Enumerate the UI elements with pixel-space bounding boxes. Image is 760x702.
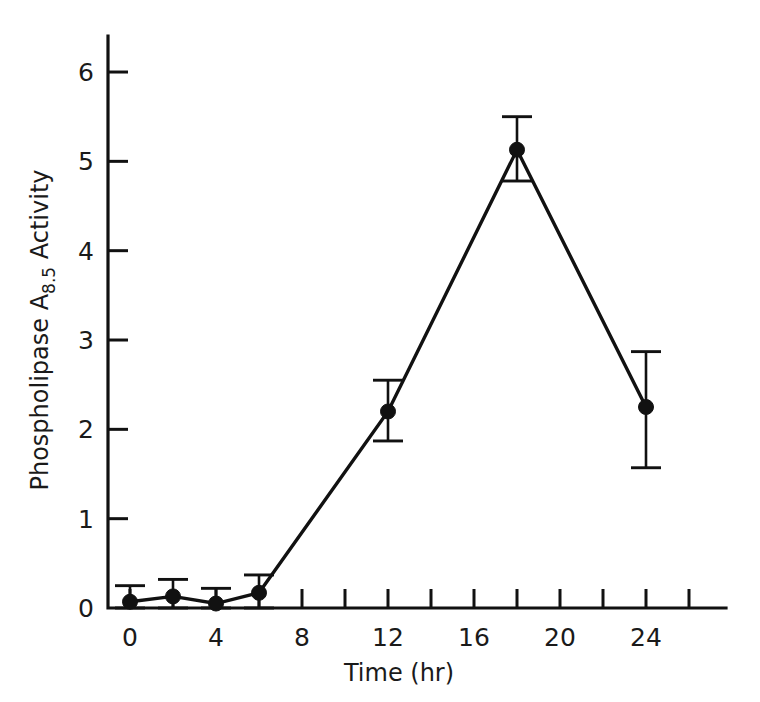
x-tick-label: 0 <box>122 623 138 652</box>
y-tick-label: 0 <box>78 594 94 623</box>
y-tick-label: 5 <box>78 147 94 176</box>
x-axis-title: Time (hr) <box>343 659 454 687</box>
data-point-marker <box>209 596 224 611</box>
y-tick-label: 4 <box>78 237 94 266</box>
data-point-marker <box>639 400 654 415</box>
x-tick-label: 24 <box>630 623 662 652</box>
data-point-marker <box>166 589 181 604</box>
y-tick-label: 1 <box>78 505 94 534</box>
y-tick-label: 3 <box>78 326 94 355</box>
x-tick-label: 12 <box>372 623 404 652</box>
y-tick-label: 6 <box>78 58 94 87</box>
x-tick-label: 8 <box>294 623 310 652</box>
data-point-marker <box>381 404 396 419</box>
x-tick-label: 20 <box>544 623 576 652</box>
y-axis-title-subscript: 8.5 <box>39 267 59 294</box>
data-point-marker <box>123 594 138 609</box>
y-axis-title-suffix: Activity <box>26 169 54 266</box>
y-tick-label: 2 <box>78 415 94 444</box>
line-chart-plot: 0123456 04812162024 Time (hr) Phospholip… <box>0 0 760 702</box>
data-point-marker <box>510 142 525 157</box>
data-point-marker <box>252 585 267 600</box>
figure-root: 0123456 04812162024 Time (hr) Phospholip… <box>0 0 760 702</box>
x-tick-label: 16 <box>458 623 490 652</box>
y-axis-title-main: Phospholipase A <box>26 293 54 490</box>
x-tick-label: 4 <box>208 623 224 652</box>
